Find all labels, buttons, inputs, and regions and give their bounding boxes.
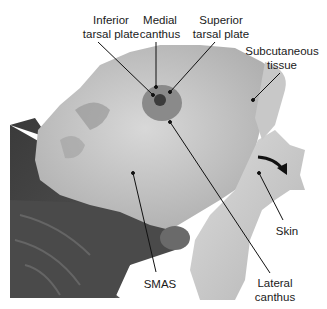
label-superior-tarsal-plate: Superior tarsal plate [193, 13, 249, 41]
label-inferior-tarsal-plate: Inferior tarsal plate [83, 13, 139, 41]
label-lateral-canthus: Lateral canthus [255, 276, 295, 304]
label-skin: Skin [276, 224, 298, 238]
label-smas: SMAS [144, 277, 177, 291]
anatomy-figure: Inferior tarsal plate Medial canthus Sup… [0, 0, 327, 309]
label-subcutaneous-tissue: Subcutaneous tissue [245, 44, 319, 72]
label-medial-canthus: Medial canthus [140, 13, 180, 41]
